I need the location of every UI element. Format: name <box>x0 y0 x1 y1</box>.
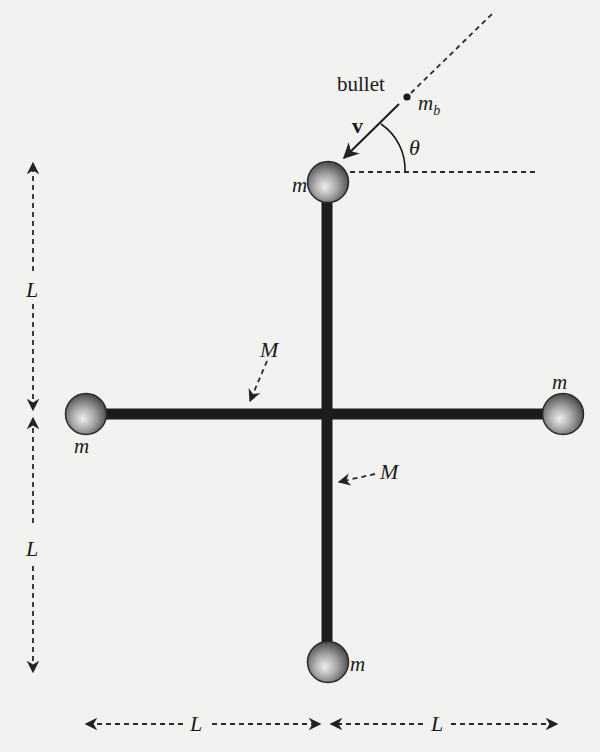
physics-diagram: m m m m bullet mb v θ M M L L L L <box>0 0 600 752</box>
bullet-trajectory-line <box>411 14 492 93</box>
mass-label-top: m <box>292 173 307 197</box>
rods <box>86 182 563 662</box>
rod-mass-pointer-horizontal <box>250 361 267 401</box>
sphere-bottom <box>308 642 349 683</box>
mass-label-left: m <box>74 434 89 458</box>
length-label-left-upper: L <box>25 277 38 302</box>
rod-mass-label-horizontal: M <box>259 337 280 362</box>
bullet-dot <box>403 93 410 100</box>
rod-mass-pointers <box>250 361 375 482</box>
sphere-top <box>308 162 349 203</box>
bullet-mass-base: m <box>418 91 433 115</box>
bullet-mass-label: mb <box>418 91 440 118</box>
mass-label-right: m <box>552 370 567 394</box>
length-label-bottom-right: L <box>430 711 443 736</box>
sphere-right <box>543 394 584 435</box>
sphere-left <box>66 394 107 435</box>
mass-label-bottom: m <box>350 652 365 676</box>
bullet-label: bullet <box>337 72 385 96</box>
rod-mass-pointer-vertical <box>339 474 375 482</box>
bullet-mass-subscript: b <box>433 103 440 118</box>
length-label-left-lower: L <box>25 536 38 561</box>
length-label-bottom-left: L <box>189 711 202 736</box>
angle-label: θ <box>409 135 420 160</box>
angle-arc <box>381 124 405 172</box>
velocity-label: v <box>352 113 363 138</box>
rod-mass-label-vertical: M <box>379 459 400 484</box>
